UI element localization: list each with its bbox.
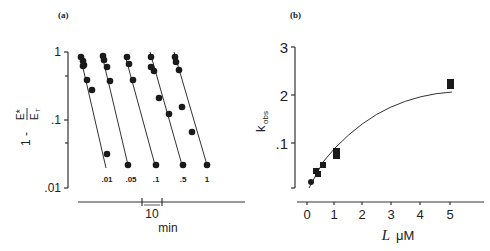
- b-y-axis: [291, 47, 295, 188]
- fit-line-0.05: [102, 55, 128, 165]
- svg-text:3: 3: [387, 207, 394, 222]
- svg-text:0: 0: [303, 207, 310, 222]
- figure: (a) 1 .1 .01 1 - E* E T: [0, 0, 490, 251]
- b-y-label: k obs: [253, 111, 270, 132]
- b-ytick-3: 3: [280, 39, 288, 56]
- svg-text:k: k: [253, 125, 268, 132]
- svg-text:obs: obs: [261, 111, 270, 124]
- a-time-axis: [78, 198, 245, 206]
- b-ytick-1: .1: [275, 135, 288, 152]
- b-x-axis: [297, 202, 484, 205]
- a-data-points: [78, 53, 211, 169]
- a-fit-lines: [80, 52, 207, 168]
- svg-text:.05: .05: [125, 175, 137, 184]
- svg-text:1 -: 1 -: [19, 132, 33, 146]
- a-ytick-0.1: .1: [51, 113, 61, 127]
- svg-text:.5: .5: [180, 175, 187, 184]
- panel-b: (b) 3 2 .1 k obs 0 1 2: [253, 10, 484, 243]
- b-ytick-2: 2: [280, 87, 288, 104]
- fit-line-0.01: [80, 55, 106, 168]
- svg-text:E: E: [29, 113, 40, 120]
- a-scale-value: 10: [145, 207, 159, 221]
- svg-text:1: 1: [330, 207, 337, 222]
- b-x-label-var: L: [381, 227, 390, 243]
- svg-text:5: 5: [446, 207, 453, 222]
- svg-text:1: 1: [205, 175, 210, 184]
- b-data-points: [308, 79, 454, 185]
- a-line-labels: .01 .05 .1 .5 1: [101, 175, 209, 184]
- svg-text:.1: .1: [153, 175, 160, 184]
- b-x-label-unit: μM: [396, 228, 414, 243]
- a-scale-unit: min: [158, 221, 177, 235]
- panel-a-y-axis: [64, 52, 68, 188]
- svg-text:4: 4: [416, 207, 423, 222]
- svg-text:E*: E*: [15, 109, 26, 120]
- panel-a-label: (a): [58, 10, 69, 20]
- panel-b-label: (b): [290, 10, 301, 20]
- b-fit-curve: [309, 92, 452, 188]
- a-ytick-1: 1: [54, 45, 61, 59]
- a-ytick-0.01: .01: [44, 181, 61, 195]
- svg-text:2: 2: [358, 207, 365, 222]
- svg-text:T: T: [35, 108, 41, 112]
- a-y-label: 1 - E* E T: [15, 108, 41, 146]
- b-x-ticks: 0 1 2 3 4 5: [303, 207, 453, 222]
- svg-text:.01: .01: [101, 175, 113, 184]
- panel-a: (a) 1 .1 .01 1 - E* E T: [15, 10, 245, 235]
- fit-line-0.1: [125, 55, 155, 165]
